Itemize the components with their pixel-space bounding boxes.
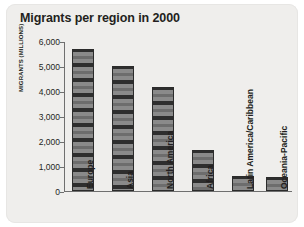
y-axis-tick-mark [60,92,64,93]
bar-category-label: Europe [85,160,95,189]
bar-category-label: Asia [125,171,135,189]
bar-group: Oceania-Pacific [266,41,288,191]
bar-group: North America [152,41,174,191]
plot-area: EuropeAsiaNorth AmericaAfricaLatin Ameri… [64,42,292,192]
bar-category-label: Africa [205,165,215,189]
y-axis-tick-mark [60,67,64,68]
y-axis-tick-label: 4,000 [39,87,60,97]
bar-category-label: Latin America/Caribbean [245,89,255,189]
y-axis-tick-label: 3,000 [39,112,60,122]
chart-title: Migrants per region in 2000 [20,11,180,25]
x-axis-line [64,191,292,192]
bar-group: Latin America/Caribbean [232,41,254,191]
y-axis-tick-label: 2,000 [39,137,60,147]
y-axis-tick-mark [60,142,64,143]
bar-group: Asia [112,41,134,191]
y-axis-tick-mark [60,192,64,193]
y-axis-tick-mark [60,167,64,168]
y-axis-tick-mark [60,117,64,118]
y-axis-tick-label: 6,000 [39,37,60,47]
y-axis-tick-labels: 6,0005,0004,0003,0002,0001,0000 [24,42,60,192]
y-axis-tick-label: 5,000 [39,62,60,72]
y-axis-tick-mark [60,42,64,43]
bar-group: Africa [192,41,214,191]
bar-category-label: Oceania-Pacific [279,126,289,189]
chart-panel: Migrants per region in 2000 MIGRANTS (MI… [6,4,298,223]
y-axis-line [64,42,65,192]
bar-group: Europe [72,41,94,191]
y-axis-tick-label: 1,000 [39,162,60,172]
bar-category-label: North America [165,131,175,189]
